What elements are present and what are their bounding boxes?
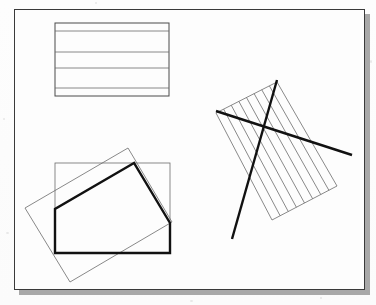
- rotated-rectangle: [25, 148, 172, 282]
- rotated-hatched-rectangle: [216, 82, 337, 220]
- diagram-hatched-rectangle-top-left: [55, 23, 169, 96]
- paper-speck: [3, 118, 5, 120]
- diagram-hatched-rotated-rectangle-right: [216, 80, 352, 239]
- paper-speck: [190, 300, 193, 302]
- hatched-rectangle-outline: [55, 23, 169, 96]
- figure-panel: [14, 9, 365, 290]
- paper-speck: [95, 2, 97, 4]
- intersection-polygon: [55, 163, 170, 253]
- paper-speck: [370, 60, 372, 63]
- figure-drawing: [15, 10, 364, 289]
- screenshot-root: [0, 0, 376, 305]
- diagram-rectangle-clip-bottom-left: [25, 148, 172, 282]
- paper-speck: [6, 232, 9, 234]
- paper-speck: [320, 297, 322, 299]
